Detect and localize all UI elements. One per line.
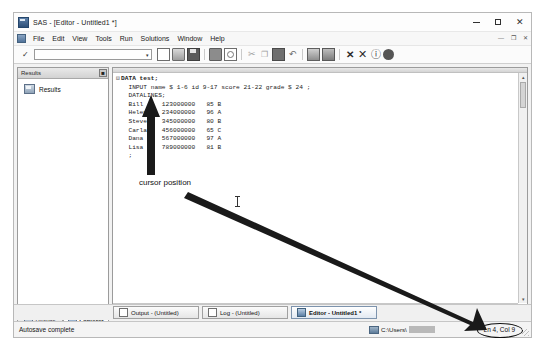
cursor-position-highlight-circle	[477, 323, 523, 338]
submit-icon[interactable]	[307, 48, 320, 61]
log-window-icon	[208, 308, 217, 317]
close-button[interactable]: ✕	[509, 14, 531, 31]
help-icon[interactable]: ⓘ	[370, 49, 381, 60]
redaction-block	[409, 326, 435, 333]
code-line-text: Helen 234000000 96 A	[121, 109, 221, 116]
code-line: Lisa 789000000 81 B	[116, 144, 518, 153]
menu-item-view[interactable]: View	[68, 35, 91, 42]
scroll-down-icon[interactable]: ▾	[519, 295, 527, 303]
menu-item-solutions[interactable]: Solutions	[137, 35, 174, 42]
code-line: ;	[116, 152, 518, 161]
paste-icon[interactable]	[272, 48, 285, 61]
code-line-text: Steven 345000000 80 B	[121, 118, 221, 125]
editor-window-icon	[297, 308, 306, 317]
panel-close-icon[interactable]: ■	[99, 69, 107, 77]
stop-icon[interactable]: ✕	[357, 49, 368, 60]
title-bar: SAS - [Editor - Untitled1 *] ✕	[14, 13, 531, 32]
print-icon[interactable]	[209, 48, 222, 61]
window-taskbar: Output - (Untitled) Log - (Untitled) Edi…	[14, 304, 531, 320]
toolbar: ✓ ▾ ✂ ❐ ↶ ✕ ✕ ⓘ	[14, 46, 531, 64]
clear-all-icon[interactable]	[322, 48, 335, 61]
workspace: Results ■ Results Results Explorer ⊟D	[14, 64, 531, 337]
mdi-window-controls: — ❐ ✕	[497, 34, 529, 41]
sas-help-icon[interactable]	[383, 49, 394, 60]
scroll-up-icon[interactable]: ▴	[519, 73, 527, 81]
results-panel: Results ■ Results	[17, 67, 109, 313]
toolbar-divider	[302, 49, 303, 60]
code-line-text: ;	[121, 152, 132, 159]
code-editor-area[interactable]: ⊟DATA test; INPUT name $ 1-6 id 9-17 sco…	[113, 73, 518, 303]
window-controls: ✕	[465, 13, 531, 31]
code-line: ⊟DATA test;	[116, 75, 518, 84]
submit-check-icon[interactable]: ✓	[22, 50, 29, 59]
sas-app-icon	[18, 17, 29, 28]
undo-icon[interactable]: ↶	[287, 49, 298, 60]
window-tab-label: Log - (Untitled)	[220, 310, 260, 316]
cursor-position-annotation-label: cursor position	[139, 178, 191, 187]
mdi-close-button[interactable]: ✕	[521, 34, 529, 41]
code-line-text: Bill 123000000 85 B	[121, 101, 221, 108]
editor-window: ⊟DATA test; INPUT name $ 1-6 id 9-17 sco…	[112, 67, 528, 313]
mdi-document-icon[interactable]	[17, 34, 26, 43]
vertical-scrollbar-thumb[interactable]	[520, 82, 526, 108]
menu-item-file[interactable]: File	[29, 35, 48, 42]
mdi-minimize-button[interactable]: —	[497, 35, 505, 41]
break-icon[interactable]: ✕	[344, 49, 355, 60]
print-preview-icon[interactable]	[224, 48, 237, 61]
code-line: INPUT name $ 1-6 id 9-17 score 21-22 gra…	[116, 84, 518, 93]
save-icon[interactable]	[187, 48, 200, 61]
code-line-text: Carla 456000000 65 C	[121, 127, 221, 134]
toolbar-divider	[241, 49, 242, 60]
mdi-restore-button[interactable]: ❐	[509, 34, 517, 41]
window-tab-editor[interactable]: Editor - Untitled1 *	[291, 306, 377, 319]
menu-item-tools[interactable]: Tools	[91, 35, 115, 42]
code-line: DATALINES;	[116, 92, 518, 101]
results-panel-titlebar: Results ■	[18, 68, 108, 79]
code-line: Steven 345000000 80 B	[116, 118, 518, 127]
window-tab-log[interactable]: Log - (Untitled)	[202, 306, 288, 319]
output-window-icon	[119, 308, 128, 317]
status-path-text: C:\Users\	[381, 326, 407, 333]
window-tab-label: Editor - Untitled1 *	[309, 310, 361, 316]
copy-icon[interactable]: ❐	[259, 49, 270, 60]
menu-bar: File Edit View Tools Run Solutions Windo…	[14, 32, 531, 46]
text-cursor-ibeam	[235, 196, 240, 207]
code-line-text: Dana 567000000 97 A	[121, 135, 221, 142]
results-panel-title-label: Results	[21, 70, 41, 76]
minimize-button[interactable]	[465, 14, 487, 31]
maximize-button[interactable]	[487, 14, 509, 31]
tree-item-label: Results	[39, 86, 61, 93]
code-line: Helen 234000000 96 A	[116, 109, 518, 118]
cut-icon[interactable]: ✂	[246, 49, 257, 60]
window-tab-output[interactable]: Output - (Untitled)	[113, 306, 199, 319]
status-bar: Autosave complete C:\Users\ Ln 4, Col 9	[14, 321, 531, 337]
new-icon[interactable]	[157, 48, 170, 61]
code-line: Dana 567000000 97 A	[116, 135, 518, 144]
status-path: C:\Users\	[369, 326, 435, 334]
resize-grip-icon[interactable]	[522, 329, 529, 336]
sas-application-window: SAS - [Editor - Untitled1 *] ✕ File Edit…	[13, 12, 532, 338]
command-input[interactable]: ▾	[34, 49, 152, 60]
code-line-text: DATA test;	[121, 75, 158, 82]
menu-item-edit[interactable]: Edit	[48, 35, 68, 42]
menu-item-window[interactable]: Window	[173, 35, 206, 42]
menu-item-help[interactable]: Help	[206, 35, 228, 42]
code-line-text: INPUT name $ 1-6 id 9-17 score 21-22 gra…	[121, 84, 310, 91]
code-line: Carla 456000000 65 C	[116, 127, 518, 136]
toolbar-divider	[339, 49, 340, 60]
status-message: Autosave complete	[19, 326, 74, 333]
window-tab-label: Output - (Untitled)	[131, 310, 179, 316]
window-title: SAS - [Editor - Untitled1 *]	[33, 19, 117, 26]
results-folder-icon	[24, 84, 35, 94]
editor-vertical-scrollbar[interactable]: ▴ ▾	[518, 73, 527, 303]
code-line-text: DATALINES;	[121, 92, 166, 99]
folder-icon	[369, 326, 379, 334]
code-line-text: Lisa 789000000 81 B	[121, 144, 221, 151]
open-icon[interactable]	[172, 48, 185, 61]
toolbar-file-group: ✂ ❐ ↶ ✕ ✕ ⓘ	[156, 48, 395, 61]
tree-item-results[interactable]: Results	[24, 84, 108, 94]
menu-item-run[interactable]: Run	[116, 35, 137, 42]
code-line: Bill 123000000 85 B	[116, 101, 518, 110]
toolbar-divider	[204, 49, 205, 60]
chevron-down-icon[interactable]: ▾	[146, 52, 149, 58]
